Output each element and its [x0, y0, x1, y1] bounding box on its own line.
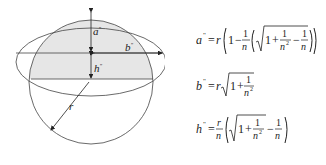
svg-text:+: + — [245, 122, 252, 136]
svg-text:1: 1 — [255, 117, 260, 128]
svg-text:1: 1 — [230, 79, 236, 93]
svg-text:": " — [203, 120, 206, 128]
formula-a-render: a " = r 1 − 1 n 1 + 1 n 2 − 1 n — [196, 20, 326, 60]
svg-text:=: = — [208, 33, 215, 47]
formula-h-render: h " = r n 1 + 1 n 2 − 1 n — [196, 111, 296, 151]
svg-text:+: + — [272, 33, 279, 47]
svg-text:1: 1 — [246, 74, 251, 85]
svg-text:1: 1 — [302, 28, 307, 39]
formula-b: b " = r 1 + 1 n 2 — [196, 72, 276, 104]
svg-text:n: n — [242, 41, 247, 52]
svg-text:n: n — [216, 130, 221, 141]
svg-text:r: r — [216, 79, 221, 93]
svg-text:=: = — [208, 79, 215, 93]
svg-text:r: r — [216, 33, 221, 47]
svg-text:2: 2 — [250, 86, 253, 92]
svg-text:−: − — [293, 33, 300, 47]
svg-text:": " — [203, 31, 206, 39]
formula-h: h " = r n 1 + 1 n 2 − 1 n — [196, 111, 296, 153]
svg-text:a: a — [196, 33, 202, 47]
svg-text:h: h — [196, 122, 202, 136]
svg-text:1: 1 — [276, 117, 281, 128]
svg-text:1: 1 — [265, 33, 271, 47]
svg-text:1: 1 — [238, 122, 244, 136]
svg-text:r: r — [217, 117, 221, 128]
svg-text:−: − — [267, 122, 274, 136]
svg-text:1: 1 — [228, 33, 234, 47]
svg-text:−: − — [235, 33, 242, 47]
svg-text:=: = — [208, 122, 215, 136]
svg-text:2: 2 — [259, 129, 262, 135]
svg-text:n: n — [275, 130, 280, 141]
svg-text:1: 1 — [243, 28, 248, 39]
svg-text:n: n — [280, 41, 285, 52]
svg-text:": " — [203, 77, 206, 85]
svg-text:b: b — [196, 79, 202, 93]
svg-text:2: 2 — [286, 40, 289, 46]
svg-text:n: n — [253, 130, 258, 141]
label-r: r — [69, 100, 74, 112]
svg-text:1: 1 — [282, 28, 287, 39]
svg-text:n: n — [244, 87, 249, 98]
formula-a: a " = r 1 − 1 n 1 + 1 n 2 − 1 n — [196, 20, 326, 62]
svg-text:+: + — [237, 79, 244, 93]
svg-text:n: n — [301, 41, 306, 52]
formula-b-render: b " = r 1 + 1 n 2 — [196, 72, 276, 102]
sphere-cap-diagram: a" b" h" r — [0, 0, 165, 165]
